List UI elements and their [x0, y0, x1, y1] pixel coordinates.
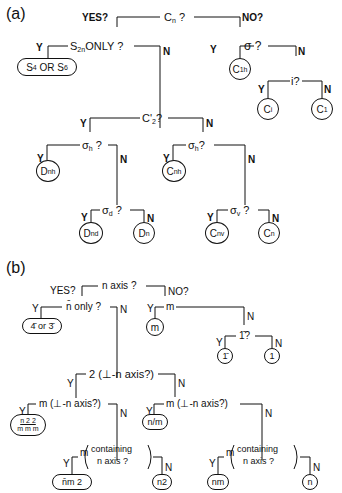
- s2n-yes-label: Y: [36, 42, 43, 54]
- m-perp-left-no-label: N: [120, 408, 127, 420]
- leaf-ci: Ci: [257, 98, 279, 120]
- m-perp-right-question: m (⊥-n axis?): [166, 398, 228, 410]
- c2-no-label: N: [206, 118, 213, 130]
- s2n-no-label: N: [163, 46, 170, 58]
- leaf-n2: n2: [152, 474, 172, 490]
- m-cont-right-line1: containing: [237, 443, 278, 455]
- cn-question: Cn ?: [164, 11, 185, 27]
- sigma-h-right-question: σh?: [188, 139, 205, 155]
- m-cont-right-line2: n axis ?: [243, 455, 274, 467]
- leaf-cn: Cn: [258, 222, 280, 244]
- leaf-m: m: [146, 318, 164, 336]
- sigma-no-label: N: [298, 46, 305, 58]
- leaf-c1h: C1h: [229, 58, 251, 80]
- leaf-n-over-m-2-over-m-2-over-m: n 2 2 m m m: [10, 414, 46, 436]
- c2-prime-question: C'2?: [142, 112, 162, 128]
- nbar-yes-label: Y: [32, 303, 39, 315]
- two-yes-label: Y: [67, 378, 74, 390]
- sigma-h-left-question: σh ?: [82, 139, 102, 155]
- two-perp-question: 2 (⊥-n axis?): [89, 368, 154, 380]
- b-root-yes-label: YES?: [50, 285, 76, 297]
- sigma-v-question: σv ?: [230, 204, 249, 220]
- leaf-nbar-m-2: n̄m 2: [52, 474, 92, 490]
- sh-left-no-label: N: [120, 154, 127, 166]
- root-no-label: NO?: [242, 12, 263, 24]
- fraction-numerators: n 2 2: [20, 417, 36, 425]
- m-cont-right-no-label: N: [313, 462, 320, 474]
- c2-yes-label: Y: [80, 118, 87, 130]
- leaf-dnd: Dnd: [79, 222, 103, 244]
- panel-b-label: (b): [6, 262, 26, 274]
- n-axis-question: n axis ?: [102, 280, 136, 292]
- b-root-no-label: NO?: [168, 286, 189, 298]
- sigma-yes-label: Y: [210, 44, 217, 56]
- m-cont-right-yes-label: Y: [209, 458, 216, 470]
- root-yes-label: YES?: [82, 12, 108, 24]
- leaf-n-over-m: n/m: [142, 414, 168, 430]
- m-question: m: [166, 301, 174, 313]
- leaf-c1: C1: [311, 98, 333, 120]
- leaf-nm: nm: [207, 474, 229, 490]
- m-cont-left-line1: containing: [91, 443, 132, 455]
- inversion-question: i?: [291, 75, 300, 87]
- m-cont-left-line2: n axis ?: [97, 455, 128, 467]
- fraction-denominators: m m m: [17, 425, 38, 433]
- m-cont-left-yes-label: Y: [63, 458, 70, 470]
- leaf-cnv: Cnv: [205, 222, 229, 244]
- panel-a-label: (a): [6, 8, 26, 20]
- two-no-label: N: [178, 378, 185, 390]
- onebar-question: 1̄?: [239, 330, 250, 342]
- leaf-4bar-or-3bar: 4̄ or 3̄: [22, 318, 62, 334]
- leaf-dn: Dn: [133, 222, 155, 244]
- m-perp-left-question: m (⊥-n axis?): [39, 398, 101, 410]
- leaf-cnh: Cnh: [162, 160, 186, 182]
- leaf-1bar: 1̄: [217, 348, 233, 364]
- sh-right-no-label: N: [248, 154, 255, 166]
- leaf-s4-or-s6: S4 OR S6: [17, 58, 77, 76]
- leaf-n: n: [302, 474, 318, 490]
- m-cont-right-m: m: [226, 447, 234, 459]
- leaf-dnh: Dnh: [36, 160, 60, 182]
- m-cont-left-m: m: [80, 447, 88, 459]
- m-yes-label: Y: [147, 303, 154, 315]
- s2n-only-question: S2nONLY ?: [70, 40, 123, 56]
- m-perp-right-no-label: N: [265, 408, 272, 420]
- nbar-no-label: N: [120, 304, 127, 316]
- nbar-only-question: n̄ only ?: [66, 301, 101, 313]
- m-cont-left-no-label: N: [165, 462, 172, 474]
- sigma-d-question: σd ?: [102, 204, 122, 220]
- i-no-label: N: [324, 84, 331, 96]
- onebar-yes-label: Y: [216, 337, 223, 349]
- sigma-question: σ ?: [244, 40, 261, 52]
- i-yes-label: Y: [258, 84, 265, 96]
- leaf-1: 1: [264, 348, 280, 364]
- m-no-label: N: [247, 311, 254, 323]
